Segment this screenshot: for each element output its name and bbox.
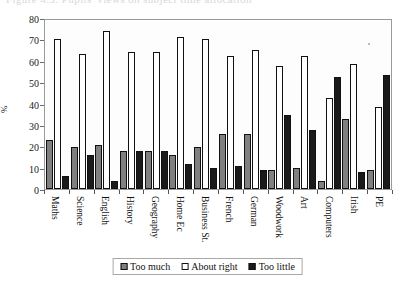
y-tick-label: 70 xyxy=(11,35,39,46)
x-tick-label: Woodwork xyxy=(274,196,284,238)
x-label-cell: Geography xyxy=(143,194,168,250)
bar-little xyxy=(358,172,365,189)
legend-label: Too much xyxy=(130,261,170,272)
bar-right xyxy=(375,107,382,189)
bar-right xyxy=(227,56,234,189)
bar-group xyxy=(342,20,367,189)
bar-much xyxy=(120,151,127,189)
legend-label: Too little xyxy=(259,261,295,272)
y-tick-label: 20 xyxy=(11,142,39,153)
x-tick-label: Home Ec xyxy=(175,196,185,232)
x-tick-label: Irish xyxy=(349,196,359,213)
bar-much xyxy=(268,170,275,189)
bar-group xyxy=(317,20,342,189)
bar-right xyxy=(54,39,61,189)
bar-much xyxy=(219,134,226,189)
bar-much xyxy=(318,181,325,189)
bar-right xyxy=(350,64,357,189)
x-label-cell: Science xyxy=(69,194,94,250)
x-tick-label: History xyxy=(125,196,135,225)
bar-much xyxy=(71,147,78,189)
y-tick-label: 0 xyxy=(11,185,39,196)
bar-little xyxy=(309,130,316,189)
x-label-cell: Computers xyxy=(317,194,342,250)
bar-group xyxy=(366,20,391,189)
x-label-cell: Business St. xyxy=(193,194,218,250)
x-tick-label: Geography xyxy=(150,196,160,238)
bar-group xyxy=(218,20,243,189)
y-tick-label: 50 xyxy=(11,78,39,89)
bar-right xyxy=(177,37,184,189)
bar-little xyxy=(185,164,192,189)
bar-chart: Figure 4.3: Pupils' views on subject tim… xyxy=(0,0,415,287)
chart-legend: Too muchAbout rightToo little xyxy=(112,258,303,275)
y-tick-label: 10 xyxy=(11,163,39,174)
legend-swatch-much xyxy=(120,263,127,270)
x-label-cell: Art xyxy=(293,194,318,250)
plot-area xyxy=(44,19,392,190)
y-tick-label: 60 xyxy=(11,56,39,67)
x-tick-label: Computers xyxy=(324,196,334,238)
bar-little xyxy=(111,181,118,189)
x-tick-label: German xyxy=(249,196,259,227)
bar-group xyxy=(243,20,268,189)
bar-group xyxy=(70,20,95,189)
x-label-cell: Woodwork xyxy=(268,194,293,250)
bar-right xyxy=(252,50,259,189)
bar-group xyxy=(169,20,194,189)
x-tick-label: English xyxy=(100,196,110,225)
legend-swatch-right xyxy=(181,263,188,270)
y-axis-label: % xyxy=(0,106,9,114)
bar-right xyxy=(128,52,135,189)
bar-right xyxy=(276,66,283,189)
bar-much xyxy=(293,168,300,189)
bar-little xyxy=(284,115,291,189)
bar-little xyxy=(260,170,267,189)
bar-groups xyxy=(45,20,391,189)
bar-little xyxy=(136,151,143,189)
y-tick-label: 80 xyxy=(11,14,39,25)
bar-group xyxy=(94,20,119,189)
bar-much xyxy=(169,155,176,189)
bar-much xyxy=(194,147,201,189)
bar-much xyxy=(95,145,102,189)
bar-little xyxy=(235,166,242,189)
bar-much xyxy=(342,119,349,189)
bar-right xyxy=(79,54,86,189)
bar-much xyxy=(46,140,53,189)
bar-little xyxy=(87,155,94,189)
x-tick-label: Maths xyxy=(50,196,60,220)
bar-right xyxy=(103,31,110,189)
x-label-cell: Irish xyxy=(342,194,367,250)
x-label-cell: PE xyxy=(367,194,392,250)
x-tick-mark xyxy=(392,190,393,194)
bar-much xyxy=(145,151,152,189)
x-label-cell: Maths xyxy=(44,194,69,250)
x-label-cell: English xyxy=(94,194,119,250)
legend-item: Too little xyxy=(249,261,295,272)
bar-group xyxy=(193,20,218,189)
bar-right xyxy=(326,98,333,189)
bar-little xyxy=(334,77,341,189)
legend-item: Too much xyxy=(120,261,170,272)
bar-group xyxy=(144,20,169,189)
x-label-cell: French xyxy=(218,194,243,250)
x-tick-label: Business St. xyxy=(200,196,210,242)
bar-little xyxy=(383,75,390,189)
x-label-cell: German xyxy=(243,194,268,250)
x-label-cell: Home Ec xyxy=(168,194,193,250)
legend-item: About right xyxy=(181,261,237,272)
bar-little xyxy=(161,151,168,189)
bar-little xyxy=(62,176,69,189)
x-axis-labels: MathsScienceEnglishHistoryGeographyHome … xyxy=(44,194,392,250)
bar-little xyxy=(210,168,217,189)
bar-group xyxy=(292,20,317,189)
artifact-speck xyxy=(368,43,370,45)
legend-swatch-little xyxy=(249,263,256,270)
y-tick-label: 30 xyxy=(11,120,39,131)
bar-group xyxy=(267,20,292,189)
x-tick-label: Art xyxy=(299,196,309,209)
bar-right xyxy=(153,52,160,189)
x-label-cell: History xyxy=(119,194,144,250)
bar-group xyxy=(45,20,70,189)
